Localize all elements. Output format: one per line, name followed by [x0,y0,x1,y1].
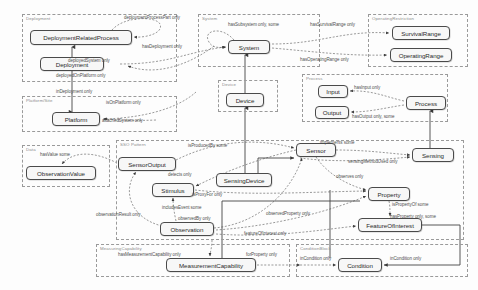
edge-label-has-measurement-capability: hasMeasurementCapability only [118,252,181,257]
edge-label-deployed-system: deployedSystem only [68,58,110,63]
class-observation[interactable]: Observation [160,222,214,236]
edge-label-is-property-of: isPropertyOf some [392,202,428,207]
edge-label-for-property: forProperty only [246,252,277,257]
edge-label-feature-of-interest: featureOfInterest only [244,231,286,236]
module-title-condition: ConditionBlock [300,246,331,252]
edge-label-observes: observes only [336,174,363,179]
class-input[interactable]: Input [318,85,348,98]
class-system[interactable]: System [228,40,270,54]
edge-label-has-property: hasProperty only, some [390,214,436,219]
edge-label-observed-by: observedBy only [178,216,211,221]
module-title-platform-site: Platform/Site [26,98,52,104]
edge-label-has-operating-range: hasOperatingRange only [300,57,349,62]
edge-label-has-survival-range: hasSurvivalRange only [310,22,355,27]
module-title-system: System [202,16,217,22]
edge-label-has-input: hasInput only [354,85,380,90]
class-measurement-capability[interactable]: MeasurementCapability [166,258,256,272]
class-observation-value[interactable]: ObservationValue [26,166,96,180]
edge-label-has-value: hasValue some [40,152,70,157]
edge-label-observation-result: observationResult only [96,212,140,217]
module-title-process: Process [306,76,323,82]
module-title-device: Device [222,82,236,88]
class-deployment-related-process[interactable]: DeploymentRelatedProcess [30,30,132,45]
class-platform[interactable]: Platform [52,112,100,126]
class-sensing-device[interactable]: SensingDevice [216,173,272,187]
module-title-data: Data [26,147,36,153]
class-sensor[interactable]: Sensor [296,143,336,157]
class-stimulus[interactable]: Stimulus [152,183,194,197]
edge-label-in-condition-left: inCondition only [300,256,331,261]
edge-label-in-deployment: inDeployment only [56,89,92,94]
class-output[interactable]: Output [315,106,349,119]
edge-label-is-proxy-for: isProxyFor only [192,192,222,197]
edge-label-has-output: hasOutput only, some [352,114,394,119]
class-property[interactable]: Property [368,187,410,201]
edge-label-in-condition-right: inCondition only [390,256,421,261]
edge-label-deployment-process-part: deploymentProcessPart only [124,15,180,20]
class-operating-range[interactable]: OperatingRange [390,48,452,62]
ontology-diagram-canvas: Deployment Platform/Site Data System Ope… [0,0,478,290]
class-condition[interactable]: Condition [338,258,382,272]
edge-label-sensing-method-used: sensingMethodUsed only [348,159,397,164]
class-feature-of-interest[interactable]: FeatureOfInterest [358,218,422,232]
class-sensing[interactable]: Sensing [412,148,454,162]
edge-label-is-produced-by: isProducedBy some [188,143,227,148]
edge-label-detects: detects only [168,172,191,177]
class-device[interactable]: Device [226,93,264,107]
edge-label-deployed-on-platform: deployedOnPlatform only [56,73,105,78]
module-title-operating-restriction: OperatingRestriction [372,16,414,22]
edge-label-attached-system: attachedSystem only [102,118,143,123]
class-process[interactable]: Process [406,96,446,110]
module-title-deployment: Deployment [26,16,50,22]
module-title-sso-pattern: SSO Pattern [120,142,146,148]
edge-label-includes-event: includesEvent some [162,205,201,210]
edge-label-has-subsystem: hasSubsystem only, some [228,22,279,27]
edge-label-implements: implements some [320,140,355,145]
class-survival-range[interactable]: SurvivalRange [392,26,450,40]
edge-label-is-on-platform: isOnPlatform only [106,100,141,105]
class-sensor-output[interactable]: SensorOutput [118,157,176,171]
edge-label-has-deployment: hasDeployment only [142,44,182,49]
edge-label-observed-property: observedProperty only [266,211,310,216]
